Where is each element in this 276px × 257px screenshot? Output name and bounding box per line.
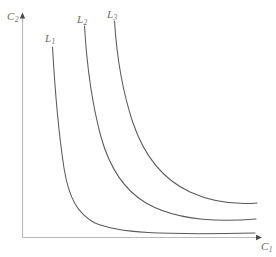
- curve-label-l1-subscript: 1: [51, 37, 55, 46]
- x-axis-label: C1: [261, 241, 272, 254]
- curve-label-l2-subscript: 2: [83, 18, 87, 27]
- curve-l2: [85, 26, 257, 220]
- plot-area: [0, 0, 276, 257]
- x-axis-label-subscript: 1: [268, 245, 272, 254]
- curve-l3: [115, 21, 258, 204]
- y-axis-label-subscript: 2: [14, 15, 18, 24]
- y-axis-arrowhead-icon: [20, 13, 25, 19]
- curve-label-l2: L2: [77, 14, 87, 27]
- curve-label-l1: L1: [45, 33, 55, 46]
- y-axis-label: C2: [7, 11, 18, 24]
- curve-label-l3-subscript: 3: [113, 13, 117, 22]
- indifference-curve-figure: C2 C1 L1 L2 L3: [0, 0, 276, 257]
- curve-label-l3: L3: [107, 9, 117, 22]
- curve-l1: [53, 47, 256, 234]
